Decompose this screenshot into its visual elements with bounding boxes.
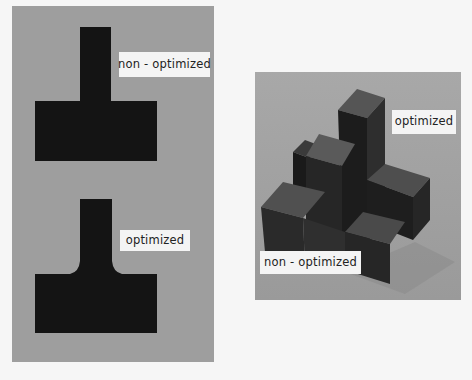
label-non-optimized-3d: non - optimized	[260, 251, 361, 274]
label-optimized-3d: optimized	[392, 110, 456, 134]
left-figure-panel: non - optimized optimized	[12, 6, 214, 362]
right-figure-panel: optimized non - optimized	[255, 72, 461, 300]
label-optimized-2d: optimized	[120, 230, 190, 251]
label-non-optimized-2d: non - optimized	[119, 52, 210, 77]
